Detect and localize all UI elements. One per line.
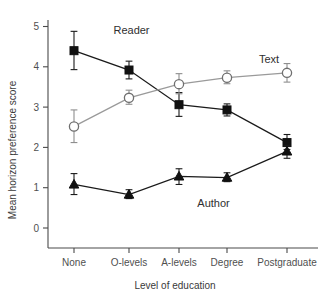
data-point-marker xyxy=(282,68,291,77)
series-author xyxy=(69,145,292,198)
data-point-marker xyxy=(69,179,79,188)
data-point-marker xyxy=(222,73,231,82)
line-chart: 012345 NoneO-levelsA-levelsDegreePostgra… xyxy=(0,0,326,299)
y-tick-label: 4 xyxy=(33,61,39,72)
data-point-marker xyxy=(223,106,231,114)
y-axis-tick-labels: 012345 xyxy=(33,21,39,234)
y-axis-title: Mean horizon preference score xyxy=(7,80,18,219)
x-axis-title: Level of education xyxy=(134,280,215,291)
chart-annotations: ReaderTextAuthor xyxy=(113,24,279,209)
series-annotation-text: Text xyxy=(259,53,279,65)
y-tick-label: 3 xyxy=(33,102,39,113)
x-tick-label: Degree xyxy=(211,257,244,268)
data-point-marker xyxy=(282,146,292,155)
series-annotation-author: Author xyxy=(197,197,230,209)
data-point-marker xyxy=(174,171,184,180)
data-point-marker xyxy=(70,47,78,55)
y-tick-label: 5 xyxy=(33,21,39,32)
y-tick-label: 0 xyxy=(33,223,39,234)
y-tick-label: 2 xyxy=(33,142,39,153)
data-point-marker xyxy=(175,101,183,109)
y-axis-ticks xyxy=(43,27,48,229)
x-axis-ticks xyxy=(74,248,287,253)
series-reader xyxy=(70,31,291,149)
series-line-reader xyxy=(74,51,287,143)
x-tick-label: O-levels xyxy=(111,257,148,268)
series-annotation-reader: Reader xyxy=(113,24,149,36)
data-point-marker xyxy=(124,93,133,102)
data-point-marker xyxy=(125,66,133,74)
data-point-marker xyxy=(174,80,183,89)
y-tick-label: 1 xyxy=(33,182,39,193)
chart-figure: 012345 NoneO-levelsA-levelsDegreePostgra… xyxy=(0,0,326,299)
x-tick-label: Postgraduate xyxy=(257,257,317,268)
data-point-marker xyxy=(69,122,78,131)
x-tick-label: None xyxy=(62,257,86,268)
x-tick-label: A-levels xyxy=(161,257,197,268)
series-line-author xyxy=(74,151,287,194)
x-axis-tick-labels: NoneO-levelsA-levelsDegreePostgraduate xyxy=(62,257,317,268)
